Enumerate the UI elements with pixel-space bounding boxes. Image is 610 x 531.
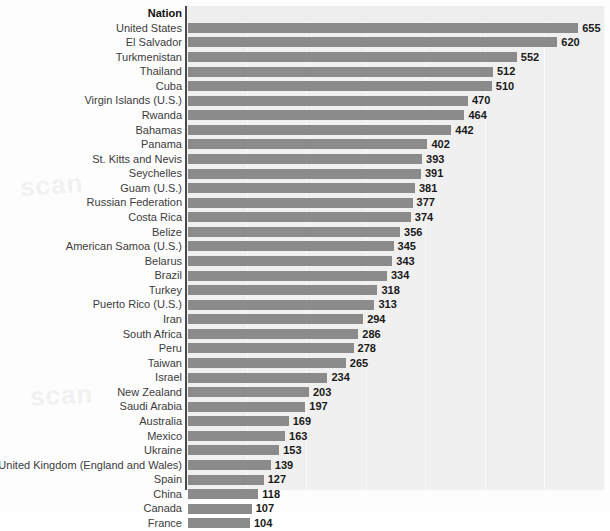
- bar-row-label: United States: [116, 21, 182, 36]
- bar-row: France104: [0, 516, 610, 531]
- bar-row: St. Kitts and Nevis393: [0, 152, 610, 167]
- bar-value-label: 118: [262, 487, 280, 502]
- bar-row-label: Ukraine: [144, 443, 182, 458]
- bar: [188, 314, 363, 324]
- bar-row: Seychelles391: [0, 166, 610, 181]
- bar-row-label: Spain: [154, 472, 182, 487]
- bar: [188, 212, 411, 222]
- bar-value-label: 203: [313, 385, 331, 400]
- bar-value-label: 552: [521, 50, 539, 65]
- bar: [188, 96, 468, 106]
- bar-row-label: China: [153, 487, 182, 502]
- bar: [188, 358, 346, 368]
- bar-row: Belarus343: [0, 254, 610, 269]
- bar: [188, 183, 415, 193]
- bar-row-label: Virgin Islands (U.S.): [84, 93, 182, 108]
- bar: [188, 445, 279, 455]
- bar: [188, 256, 392, 266]
- bar-row: Russian Federation377: [0, 195, 610, 210]
- bar: [188, 518, 250, 528]
- bar-row-label: Cuba: [156, 79, 182, 94]
- bar-row-label: Rwanda: [142, 108, 182, 123]
- bar-row: Virgin Islands (U.S.)470: [0, 93, 610, 108]
- bar-value-label: 464: [468, 108, 486, 123]
- bar: [188, 37, 557, 47]
- bar: [188, 329, 358, 339]
- bar-row: Spain127: [0, 472, 610, 487]
- bar: [188, 489, 258, 499]
- bar-value-label: 512: [497, 64, 515, 79]
- bar: [188, 198, 413, 208]
- bar-row-label: Canada: [143, 501, 182, 516]
- bar: [188, 402, 305, 412]
- bar-row: Peru278: [0, 341, 610, 356]
- bar-row: Belize356: [0, 225, 610, 240]
- bar-value-label: 345: [398, 239, 416, 254]
- bar: [188, 67, 493, 77]
- bar-row-label: American Samoa (U.S.): [66, 239, 182, 254]
- bar: [188, 23, 578, 33]
- bar-row: Puerto Rico (U.S.)313: [0, 297, 610, 312]
- bar-row: Cuba510: [0, 79, 610, 94]
- bar-row-label: Australia: [139, 414, 182, 429]
- bar-row: Australia169: [0, 414, 610, 429]
- bar-value-label: 313: [378, 297, 396, 312]
- bar-value-label: 153: [283, 443, 301, 458]
- bar-value-label: 265: [350, 356, 368, 371]
- bar-row: Mexico163: [0, 429, 610, 444]
- bar-row-label: Peru: [159, 341, 182, 356]
- bar-value-label: 294: [367, 312, 385, 327]
- bar-row: South Africa286: [0, 327, 610, 342]
- bar: [188, 460, 271, 470]
- bar-value-label: 356: [404, 225, 422, 240]
- bar-value-label: 127: [268, 472, 286, 487]
- bar-value-label: 169: [293, 414, 311, 429]
- bar-value-label: 286: [362, 327, 380, 342]
- bar-value-label: 655: [582, 21, 600, 36]
- bar: [188, 125, 451, 135]
- bar-row: Costa Rica374: [0, 210, 610, 225]
- bar: [188, 241, 394, 251]
- bar-row-label: Puerto Rico (U.S.): [93, 297, 182, 312]
- bar-row-label: Belarus: [145, 254, 182, 269]
- bar-row-label: Costa Rica: [128, 210, 182, 225]
- bar-row: Israel234: [0, 370, 610, 385]
- bar-row-label: Saudi Arabia: [120, 399, 182, 414]
- bar-value-label: 620: [561, 35, 579, 50]
- bar-row: Guam (U.S.)381: [0, 181, 610, 196]
- bar-row-label: France: [148, 516, 182, 531]
- bar-row-label: St. Kitts and Nevis: [92, 152, 182, 167]
- bar-row: New Zealand203: [0, 385, 610, 400]
- bar-row: American Samoa (U.S.)345: [0, 239, 610, 254]
- bar-value-label: 442: [455, 123, 473, 138]
- bar: [188, 504, 252, 514]
- bar-row: Brazil334: [0, 268, 610, 283]
- bar-row: Rwanda464: [0, 108, 610, 123]
- bar-value-label: 374: [415, 210, 433, 225]
- bar-row-label: Thailand: [140, 64, 182, 79]
- bar-row: Taiwan265: [0, 356, 610, 371]
- bar: [188, 271, 387, 281]
- bar-row: Turkmenistan552: [0, 50, 610, 65]
- bar-value-label: 393: [426, 152, 444, 167]
- bar: [188, 227, 400, 237]
- bar-row-label: Turkmenistan: [116, 50, 182, 65]
- bar-value-label: 278: [358, 341, 376, 356]
- bar: [188, 52, 517, 62]
- bar-row: Ukraine153: [0, 443, 610, 458]
- bar: [188, 81, 492, 91]
- bar: [188, 416, 289, 426]
- bar-row: Saudi Arabia197: [0, 399, 610, 414]
- bar: [188, 343, 354, 353]
- bar: [188, 475, 264, 485]
- bar-row-label: Belize: [152, 225, 182, 240]
- bar-value-label: 391: [425, 166, 443, 181]
- bar-row: Thailand512: [0, 64, 610, 79]
- bar-value-label: 402: [431, 137, 449, 152]
- bar-value-label: 107: [256, 501, 274, 516]
- bar-row-label: Russian Federation: [87, 195, 182, 210]
- bar-row-label: Turkey: [149, 283, 182, 298]
- bar-row: United States655: [0, 21, 610, 36]
